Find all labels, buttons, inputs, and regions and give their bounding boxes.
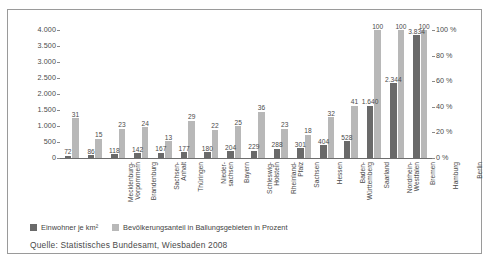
bar-group: 52841: [339, 30, 362, 158]
bar-group: 17729: [176, 30, 199, 158]
y-tick-label-left: 0: [12, 154, 56, 161]
bar-einwohner: [251, 151, 257, 158]
legend-label: Bevölkerungsanteil in Ballungsgebieten i…: [123, 223, 287, 232]
source-note: Quelle: Statistisches Bundesamt, Wiesbad…: [30, 240, 227, 250]
y-tick-mark-left: [57, 30, 60, 31]
y-tick-mark-left: [57, 46, 60, 47]
y-tick-mark-right: [432, 30, 435, 31]
bar-einwohner: [65, 156, 71, 158]
y-tick-label-left: 2.000: [12, 90, 56, 97]
bar-bevoelkerungsanteil: [421, 30, 427, 158]
y-tick-label-right: 40 %: [436, 103, 476, 110]
bar-group: 16713: [153, 30, 176, 158]
y-tick-label-right: 60 %: [436, 77, 476, 84]
y-tick-label-left: 2.500: [12, 74, 56, 81]
x-category-label: Schleswig- Holstein: [266, 162, 280, 214]
bar-value-label: 23: [114, 121, 130, 128]
bar-group: 28823: [269, 30, 292, 158]
bar-einwohner: [88, 155, 94, 158]
x-category-label: Nordrhein- Westfalen: [406, 162, 420, 214]
legend-item-bevoelkerungsanteil: Bevölkerungsanteil in Ballungsgebieten i…: [112, 223, 287, 232]
y-tick-label-left: 1.500: [12, 106, 56, 113]
legend-swatch-icon: [30, 224, 37, 231]
bar-group: 1.640100: [362, 30, 385, 158]
bar-einwohner: [297, 148, 303, 158]
bar-value-label: 1.640: [361, 98, 379, 105]
bar-value-label: 180: [198, 145, 216, 152]
bar-bevoelkerungsanteil: [398, 30, 404, 158]
x-category-label: Hamburg: [452, 162, 459, 214]
x-category-label: Rheinland- Pfalz: [290, 162, 304, 214]
bar-bevoelkerungsanteil: [258, 112, 264, 158]
bar-value-label: 13: [160, 134, 176, 141]
bar-bevoelkerungsanteil: [235, 126, 241, 158]
x-category-label: Baden- Württemberg: [359, 162, 373, 214]
legend-swatch-icon: [112, 224, 119, 231]
y-tick-label-left: 3.500: [12, 42, 56, 49]
bar-value-label: 167: [152, 145, 170, 152]
y-tick-label-right: 80 %: [436, 52, 476, 59]
y-tick-mark-right: [432, 132, 435, 133]
bar-value-label: 204: [221, 144, 239, 151]
x-category-label: Berlin: [476, 162, 483, 214]
bar-group: 11823: [107, 30, 130, 158]
y-tick-mark-right: [432, 158, 435, 159]
bar-bevoelkerungsanteil: [374, 30, 380, 158]
bar-value-label: 100: [369, 23, 385, 30]
bar-einwohner: [204, 152, 210, 158]
y-tick-mark-left: [57, 78, 60, 79]
bar-value-label: 2.344: [384, 76, 402, 83]
bar-group: 30118: [293, 30, 316, 158]
x-category-label: Brandenburg: [150, 162, 157, 214]
y-tick-mark-right: [432, 56, 435, 57]
bar-group: 14224: [130, 30, 153, 158]
bar-einwohner: [367, 106, 373, 158]
bar-einwohner: [320, 145, 326, 158]
y-tick-label-left: 4.000: [12, 26, 56, 33]
y-tick-label-right: 20 %: [436, 128, 476, 135]
x-category-label: Sachsen: [313, 162, 320, 214]
bar-value-label: 528: [338, 134, 356, 141]
y-tick-mark-right: [432, 107, 435, 108]
legend-label: Einwohner je km²: [41, 223, 98, 232]
bar-value-label: 18: [300, 127, 316, 134]
bar-einwohner: [390, 83, 396, 158]
bar-value-label: 15: [90, 131, 106, 138]
bar-value-label: 22: [207, 122, 223, 129]
y-tick-mark-right: [432, 81, 435, 82]
bar-value-label: 25: [230, 119, 246, 126]
x-category-label: Thüringen: [197, 162, 204, 214]
bar-group: 3.834100: [409, 30, 432, 158]
bar-value-label: 100: [416, 23, 432, 30]
x-category-label: Sachsen- Anhalt: [173, 162, 187, 214]
bar-group: 8615: [83, 30, 106, 158]
bar-einwohner: [111, 154, 117, 158]
bar-value-label: 31: [67, 111, 83, 118]
chart-legend: Einwohner je km² Bevölkerungsanteil in B…: [30, 223, 287, 232]
x-axis-line: [60, 158, 432, 159]
plot-area: 7231861511823142241671317729180222042522…: [60, 30, 432, 158]
bar-value-label: 29: [183, 113, 199, 120]
bar-bevoelkerungsanteil: [142, 127, 148, 158]
bar-einwohner: [181, 152, 187, 158]
y-tick-mark-left: [57, 110, 60, 111]
y-tick-mark-left: [57, 62, 60, 63]
bar-einwohner: [134, 153, 140, 158]
bar-value-label: 86: [82, 148, 100, 155]
bar-einwohner: [274, 149, 280, 158]
x-category-label: Saarland: [383, 162, 390, 214]
y-tick-label-right: 100 %: [436, 26, 476, 33]
bar-group: 20425: [223, 30, 246, 158]
bar-value-label: 24: [137, 120, 153, 127]
x-category-label: Hessen: [336, 162, 343, 214]
x-category-label: Nieder- sachsen: [220, 162, 234, 214]
bar-value-label: 301: [291, 141, 309, 148]
bar-group: 18022: [200, 30, 223, 158]
bar-value-label: 229: [245, 143, 263, 150]
bar-value-label: 404: [314, 138, 332, 145]
y-tick-mark-left: [57, 126, 60, 127]
x-category-label: Mecklenburg- Vorpommern: [127, 162, 141, 214]
chart-figure: 7231861511823142241671317729180222042522…: [7, 9, 482, 254]
bar-value-label: 32: [323, 110, 339, 117]
bar-einwohner: [158, 153, 164, 158]
